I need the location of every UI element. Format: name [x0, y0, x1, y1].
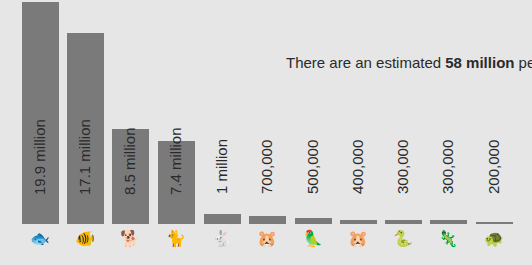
guinea-pig-icon: 🐹 — [249, 229, 285, 248]
snake-icon: 🐍 — [385, 229, 421, 248]
value-label: 8.5 million — [121, 127, 138, 195]
value-label: 300,000 — [394, 140, 411, 194]
lizard-icon: 🦎 — [430, 229, 466, 248]
goldfish-icon: 🐟 — [22, 229, 58, 248]
bar-7 — [295, 218, 332, 224]
value-label: 400,000 — [349, 140, 366, 194]
hamster-icon: 🐹 — [340, 229, 376, 248]
parrot-icon: 🦜 — [295, 229, 331, 248]
value-label: 19.9 million — [31, 119, 48, 195]
bar-5 — [204, 214, 241, 224]
value-label: 700,000 — [258, 140, 275, 194]
tortoise-icon: 🐢 — [476, 229, 512, 248]
rabbit-icon: 🐇 — [204, 229, 240, 248]
value-label: 500,000 — [304, 140, 321, 194]
title-prefix: There are an estimated — [286, 54, 445, 71]
cat-icon: 🐈 — [158, 229, 194, 248]
bar-8 — [340, 220, 377, 224]
bar-11 — [476, 222, 513, 224]
dog-icon: 🐕 — [112, 229, 148, 248]
title-highlight: 58 million — [445, 54, 514, 71]
value-label: 17.1 million — [76, 119, 93, 195]
bar-6 — [249, 216, 286, 224]
koi-icon: 🐠 — [67, 229, 103, 248]
bar-10 — [430, 220, 467, 224]
bar-9 — [385, 220, 422, 224]
title-suffix: pets in UK households. — [514, 54, 532, 71]
value-label: 200,000 — [485, 140, 502, 194]
value-label: 7.4 million — [167, 127, 184, 195]
value-label: 1 million — [213, 139, 230, 194]
value-label: 300,000 — [439, 140, 456, 194]
chart-title: There are an estimated 58 million pets i… — [286, 54, 532, 71]
